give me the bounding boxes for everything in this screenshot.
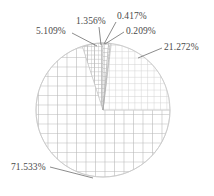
- leader-line-5: [72, 33, 97, 46]
- leader-line-1-4: [99, 27, 101, 45]
- leader-line-21: [138, 48, 162, 58]
- leader-line-0-209: [105, 32, 124, 44]
- pie-label-1-4: 1.356%: [76, 17, 106, 27]
- pie-slice-21[interactable]: [103, 43, 170, 110]
- pie-label-0-417: 0.417%: [117, 12, 147, 22]
- pie-label-5: 5.109%: [36, 27, 66, 37]
- pie-label-71: 71.533%: [11, 163, 46, 173]
- pie-label-21: 21.272%: [164, 43, 199, 53]
- pie-label-0-209: 0.209%: [126, 27, 156, 37]
- pie-chart: 5.109% 1.356% 0.417% 0.209% 21.272% 71.5…: [0, 0, 214, 196]
